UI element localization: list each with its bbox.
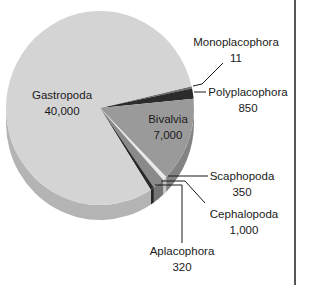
label-scaphopoda-value: 350 bbox=[206, 184, 278, 200]
label-bivalvia-value: 7,000 bbox=[136, 127, 200, 143]
label-gastropoda-name: Gastropoda bbox=[22, 87, 102, 103]
label-scaphopoda: Scaphopoda 350 bbox=[206, 168, 278, 200]
leader-monoplacophora bbox=[193, 63, 223, 86]
label-monoplacophora-name: Monoplacophora bbox=[188, 34, 284, 50]
label-aplacophora-name: Aplacophora bbox=[146, 243, 218, 259]
label-polyplacophora-value: 850 bbox=[204, 100, 292, 116]
label-cephalopoda: Cephalopoda 1,000 bbox=[204, 206, 284, 238]
pie-side-aplacophora bbox=[151, 188, 154, 205]
label-bivalvia-name: Bivalvia bbox=[136, 111, 200, 127]
label-monoplacophora-value: 11 bbox=[188, 50, 284, 66]
label-cephalopoda-name: Cephalopoda bbox=[204, 206, 284, 222]
label-gastropoda: Gastropoda 40,000 bbox=[22, 87, 102, 119]
label-polyplacophora-name: Polyplacophora bbox=[204, 84, 292, 100]
label-cephalopoda-value: 1,000 bbox=[204, 222, 284, 238]
label-scaphopoda-name: Scaphopoda bbox=[206, 168, 278, 184]
pie-side-scaphopoda bbox=[163, 177, 166, 195]
label-polyplacophora: Polyplacophora 850 bbox=[204, 84, 292, 116]
right-border-line bbox=[294, 0, 296, 285]
label-monoplacophora: Monoplacophora 11 bbox=[188, 34, 284, 66]
label-bivalvia: Bivalvia 7,000 bbox=[136, 111, 200, 143]
label-aplacophora: Aplacophora 320 bbox=[146, 243, 218, 275]
label-aplacophora-value: 320 bbox=[146, 259, 218, 275]
label-gastropoda-value: 40,000 bbox=[22, 103, 102, 119]
